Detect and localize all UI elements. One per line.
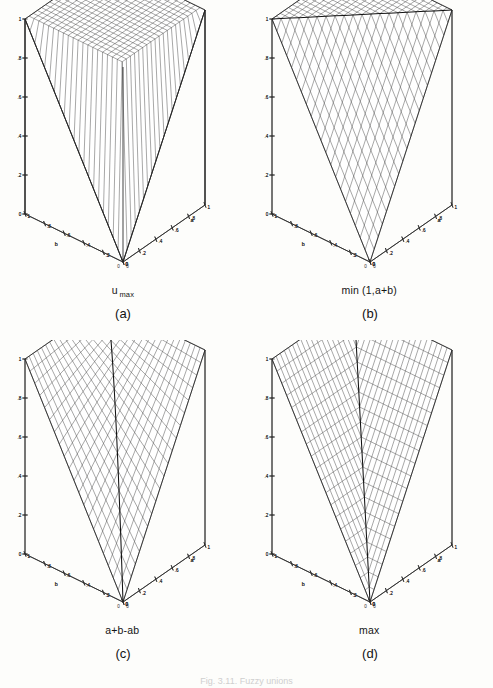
svg-text:.4: .4 [265, 474, 269, 479]
svg-text:a: a [438, 557, 441, 563]
svg-text:1: 1 [27, 554, 30, 559]
svg-text:0: 0 [373, 604, 376, 609]
svg-text:1: 1 [208, 205, 211, 210]
panel-letter-c: (c) [0, 646, 246, 661]
svg-text:.2: .2 [106, 593, 110, 598]
svg-text:1: 1 [19, 357, 22, 362]
svg-text:1: 1 [27, 214, 30, 219]
svg-text:.8: .8 [294, 224, 298, 229]
svg-text:.2: .2 [18, 173, 22, 178]
svg-text:.6: .6 [67, 233, 71, 238]
svg-text:.8: .8 [47, 564, 51, 569]
figure-panel-b: 0.2.4.6.810.2.4.6.81b0.2.4.6.81a0.2.4.6.… [247, 0, 493, 344]
svg-text:.4: .4 [86, 243, 90, 248]
svg-text:.2: .2 [142, 251, 146, 256]
svg-text:b: b [55, 581, 58, 587]
surface-svg-umax: 0.2.4.6.810.2.4.6.81b0.2.4.6.81a0.2.4.6.… [0, 0, 246, 300]
svg-text:1: 1 [455, 545, 458, 550]
panel-letter-b: (b) [247, 306, 493, 321]
svg-text:1: 1 [274, 554, 277, 559]
svg-text:0: 0 [117, 264, 120, 269]
svg-text:0: 0 [266, 552, 269, 557]
svg-text:.8: .8 [18, 396, 22, 401]
svg-text:b: b [55, 241, 58, 247]
svg-text:.2: .2 [353, 253, 357, 258]
svg-text:0: 0 [364, 264, 367, 269]
surface-plot-umax: 0.2.4.6.810.2.4.6.81b0.2.4.6.81a0.2.4.6.… [0, 0, 246, 300]
surface-plot-bounded-sum: 0.2.4.6.810.2.4.6.81b0.2.4.6.81a0.2.4.6.… [247, 0, 493, 300]
svg-text:.8: .8 [294, 564, 298, 569]
svg-text:1: 1 [455, 205, 458, 210]
svg-text:.8: .8 [18, 56, 22, 61]
svg-text:0: 0 [126, 604, 129, 609]
svg-text:1: 1 [266, 357, 269, 362]
panel-letter-a: (a) [0, 306, 246, 321]
svg-text:0: 0 [266, 212, 269, 217]
figure-panel-c: 0.2.4.6.810.2.4.6.81b0.2.4.6.81a0.2.4.6.… [0, 340, 246, 684]
svg-text:.2: .2 [389, 251, 393, 256]
svg-text:b: b [302, 581, 305, 587]
surface-svg-bounded_sum: 0.2.4.6.810.2.4.6.81b0.2.4.6.81a0.2.4.6.… [247, 0, 493, 300]
svg-text:.8: .8 [265, 56, 269, 61]
svg-text:.6: .6 [314, 233, 318, 238]
svg-text:.6: .6 [422, 568, 426, 573]
svg-text:.8: .8 [47, 224, 51, 229]
panel-expression-d: max [247, 624, 493, 639]
svg-text:.4: .4 [18, 134, 22, 139]
surface-plot-algebraic-sum: 0.2.4.6.810.2.4.6.81b0.2.4.6.81a0.2.4.6.… [0, 340, 246, 640]
svg-text:1: 1 [19, 17, 22, 22]
surface-svg-algebraic_sum: 0.2.4.6.810.2.4.6.81b0.2.4.6.81a0.2.4.6.… [0, 340, 246, 640]
svg-text:0: 0 [364, 604, 367, 609]
svg-text:.2: .2 [389, 591, 393, 596]
svg-text:.2: .2 [142, 591, 146, 596]
panel-expression-c: a+b-ab [0, 624, 246, 639]
svg-text:.2: .2 [265, 513, 269, 518]
svg-text:.4: .4 [158, 239, 162, 244]
svg-text:.4: .4 [333, 583, 337, 588]
figure-panel-d: 0.2.4.6.810.2.4.6.81b0.2.4.6.81a0.2.4.6.… [247, 340, 493, 684]
svg-text:.2: .2 [106, 253, 110, 258]
svg-text:.6: .6 [175, 568, 179, 573]
svg-text:.4: .4 [18, 474, 22, 479]
svg-text:.2: .2 [353, 593, 357, 598]
panel-letter-d: (d) [247, 646, 493, 661]
svg-text:.4: .4 [158, 579, 162, 584]
svg-text:a: a [191, 557, 194, 563]
svg-text:0: 0 [373, 264, 376, 269]
svg-text:b: b [302, 241, 305, 247]
svg-text:1: 1 [266, 17, 269, 22]
svg-text:.6: .6 [18, 435, 22, 440]
svg-text:0: 0 [117, 604, 120, 609]
svg-text:1: 1 [208, 545, 211, 550]
svg-text:.6: .6 [175, 228, 179, 233]
svg-text:.6: .6 [422, 228, 426, 233]
svg-text:.2: .2 [265, 173, 269, 178]
figure-panel-a: 0.2.4.6.810.2.4.6.81b0.2.4.6.81a0.2.4.6.… [0, 0, 246, 344]
surface-plot-max: 0.2.4.6.810.2.4.6.81b0.2.4.6.81a0.2.4.6.… [247, 340, 493, 640]
svg-text:a: a [438, 217, 441, 223]
svg-text:0: 0 [126, 264, 129, 269]
figure-sheet: 0.2.4.6.810.2.4.6.81b0.2.4.6.81a0.2.4.6.… [0, 0, 493, 688]
panel-expression-a: umax [0, 284, 246, 299]
svg-text:.6: .6 [67, 573, 71, 578]
svg-text:0: 0 [19, 552, 22, 557]
svg-text:.4: .4 [333, 243, 337, 248]
svg-text:.4: .4 [86, 583, 90, 588]
figure-caption: Fig. 3.11. Fuzzy unions [0, 676, 493, 688]
svg-text:.6: .6 [265, 435, 269, 440]
svg-text:a: a [191, 217, 194, 223]
panel-expression-b: min (1,a+b) [247, 284, 493, 299]
svg-text:.4: .4 [265, 134, 269, 139]
surface-svg-max: 0.2.4.6.810.2.4.6.81b0.2.4.6.81a0.2.4.6.… [247, 340, 493, 640]
svg-text:.8: .8 [265, 396, 269, 401]
svg-text:.6: .6 [265, 95, 269, 100]
svg-text:.2: .2 [18, 513, 22, 518]
svg-text:.6: .6 [18, 95, 22, 100]
svg-text:.6: .6 [314, 573, 318, 578]
svg-text:.4: .4 [405, 239, 409, 244]
svg-text:.4: .4 [405, 579, 409, 584]
svg-text:0: 0 [19, 212, 22, 217]
svg-text:1: 1 [274, 214, 277, 219]
